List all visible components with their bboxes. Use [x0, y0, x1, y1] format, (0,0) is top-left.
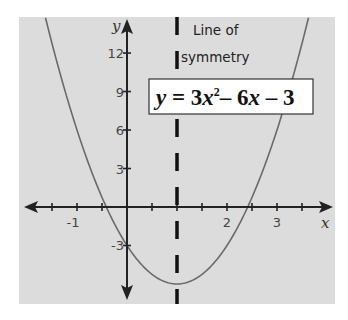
x-axis-label: x: [321, 214, 330, 232]
y-tick-label: 9: [116, 85, 124, 100]
symmetry-label-line1: Line of: [193, 22, 240, 38]
chart-svg: y x -12312963-3 Line of symmetry y = 3x2…: [0, 0, 348, 320]
y-tick-label: 6: [116, 123, 124, 138]
y-tick-label: 12: [107, 46, 124, 61]
y-axis-label: y: [111, 17, 121, 35]
equation-text: y = 3x2– 6x – 3: [153, 85, 295, 110]
y-tick-label: 3: [116, 162, 124, 177]
symmetry-label-line2: symmetry: [181, 49, 249, 65]
x-tick-label: 3: [273, 215, 281, 230]
x-tick-label: -1: [67, 215, 80, 230]
y-tick-label: -3: [111, 238, 124, 253]
x-tick-label: 2: [223, 215, 231, 230]
